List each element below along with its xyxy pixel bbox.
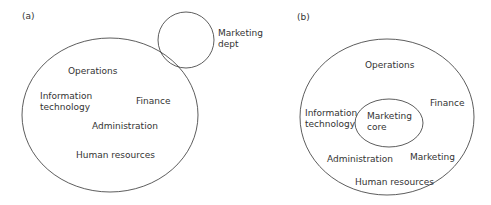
organisation-ellipse-a bbox=[22, 38, 198, 192]
label-info-tech-b: Information technology bbox=[305, 108, 357, 130]
panel-a-tag: (a) bbox=[22, 11, 35, 22]
label-operations-b: Operations bbox=[365, 60, 414, 71]
label-finance-b: Finance bbox=[430, 98, 464, 109]
label-info-tech-a: Information technology bbox=[40, 91, 92, 113]
label-operations-a: Operations bbox=[68, 66, 117, 77]
panel-b-tag: (b) bbox=[297, 12, 310, 23]
label-administration-a: Administration bbox=[92, 121, 158, 132]
label-marketing-dept-a: Marketing dept bbox=[218, 28, 263, 50]
label-administration-b: Administration bbox=[327, 154, 393, 165]
label-marketing-b: Marketing bbox=[410, 152, 455, 163]
label-finance-a: Finance bbox=[136, 96, 170, 107]
label-human-resources-b: Human resources bbox=[355, 177, 434, 188]
marketing-dept-circle-a bbox=[158, 12, 214, 68]
label-human-resources-a: Human resources bbox=[76, 150, 155, 161]
label-marketing-core-b: Marketing core bbox=[367, 111, 412, 133]
